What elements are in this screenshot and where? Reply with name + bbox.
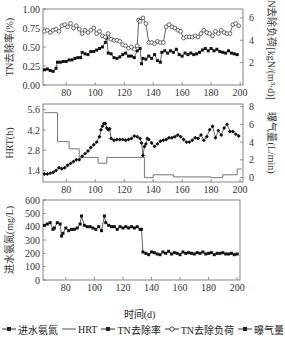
square-marker	[167, 250, 170, 253]
square-marker	[233, 52, 236, 55]
square-marker	[70, 58, 73, 61]
square-marker	[46, 223, 49, 226]
square-marker	[83, 224, 86, 227]
square-marker	[236, 53, 239, 56]
legend-label: HRT	[78, 324, 97, 335]
square-marker	[184, 52, 187, 55]
square-marker	[80, 215, 83, 218]
square-marker	[150, 57, 153, 60]
diamond-marker	[99, 128, 103, 132]
open-circle-marker	[66, 25, 70, 29]
square-marker	[181, 55, 184, 58]
square-marker	[175, 48, 178, 51]
square-marker	[113, 56, 116, 59]
square-marker	[195, 52, 198, 55]
square-marker	[124, 52, 127, 55]
square-marker	[210, 47, 213, 50]
y-tick-label: 2.8	[28, 145, 41, 156]
square-marker	[193, 253, 196, 256]
y-tick-label: 0.75	[23, 23, 41, 34]
diamond-marker	[161, 138, 165, 142]
y-right-tick-label: 8	[249, 101, 254, 112]
square-marker	[76, 56, 79, 59]
square-marker	[104, 41, 107, 44]
square-marker	[103, 215, 106, 218]
diamond-marker	[216, 129, 220, 133]
line-dot-marker-icon	[101, 324, 115, 334]
square-marker	[55, 67, 58, 70]
square-marker	[104, 221, 107, 224]
square-marker	[170, 253, 173, 256]
plot-frame	[43, 9, 243, 85]
diamond-marker	[140, 141, 144, 145]
open-circle-marker	[199, 32, 203, 36]
square-marker	[65, 60, 68, 63]
y-tick-label: 500	[25, 208, 40, 219]
open-circle-marker	[228, 32, 232, 36]
legend-item-hrt: HRT	[62, 324, 97, 335]
y-tick-label: 0.25	[23, 61, 41, 72]
x-tick-label: 180	[204, 87, 219, 98]
open-circle-marker	[69, 22, 73, 26]
panel-tn-removal: 801001201401601802000.000.250.500.751.00…	[3, 0, 278, 100]
line-dot-marker-icon	[238, 324, 252, 334]
square-marker	[142, 57, 145, 60]
open-circle-marker	[80, 32, 84, 36]
x-tick-label: 180	[201, 282, 216, 293]
x-tick-label: 200	[233, 184, 248, 195]
line-marker-icon	[62, 324, 76, 334]
square-marker	[236, 253, 239, 256]
square-marker	[166, 52, 169, 55]
diamond-marker	[213, 136, 217, 140]
square-marker	[121, 53, 124, 56]
square-marker	[130, 225, 133, 228]
square-marker	[73, 228, 76, 231]
square-marker	[49, 69, 52, 72]
square-marker	[141, 251, 144, 254]
square-marker	[46, 68, 49, 71]
square-marker	[107, 52, 110, 55]
legend: 进水氨氮 HRT TN去除率 TN去除负荷 曝气量	[2, 322, 279, 336]
open-circle-marker	[135, 44, 139, 48]
square-marker	[97, 225, 100, 228]
square-marker	[121, 227, 124, 230]
x-tick-label: 100	[88, 184, 103, 195]
series-line	[44, 38, 237, 71]
square-marker	[86, 53, 89, 56]
x-tick-label: 200	[230, 282, 245, 293]
square-marker	[70, 228, 73, 231]
square-marker	[201, 251, 204, 254]
x-tick-label: 80	[61, 282, 71, 293]
diamond-marker	[60, 167, 64, 171]
square-marker	[56, 61, 59, 64]
square-marker	[181, 251, 184, 254]
square-marker	[100, 229, 103, 232]
square-marker	[198, 51, 201, 54]
y-tick-label: 300	[25, 235, 40, 246]
square-marker	[110, 225, 113, 228]
legend-label: TN去除负荷	[181, 322, 234, 337]
y-tick-label: 0	[35, 275, 40, 286]
square-marker	[127, 55, 130, 58]
square-marker	[196, 251, 199, 254]
diamond-marker	[48, 171, 52, 175]
open-circle-marker	[211, 34, 215, 38]
square-marker	[156, 253, 159, 256]
square-marker	[215, 48, 218, 51]
square-marker	[172, 51, 175, 54]
square-marker	[140, 62, 143, 65]
y-tick-label: 1.4	[28, 165, 41, 176]
plot-frame	[43, 200, 240, 280]
y-right-tick-label: 2	[249, 57, 254, 68]
square-marker	[192, 53, 195, 56]
y-tick-label: 5.6	[28, 104, 41, 115]
y-right-axis-label: 曝气量(L/min)	[265, 112, 278, 173]
series-line	[44, 216, 237, 255]
square-marker	[118, 55, 121, 58]
legend-label: 曝气量	[254, 322, 279, 337]
y-right-tick-label: 6	[249, 12, 254, 23]
x-tick-label: 120	[117, 87, 132, 98]
square-marker	[201, 49, 204, 52]
square-marker	[144, 58, 147, 61]
square-marker	[233, 253, 236, 256]
